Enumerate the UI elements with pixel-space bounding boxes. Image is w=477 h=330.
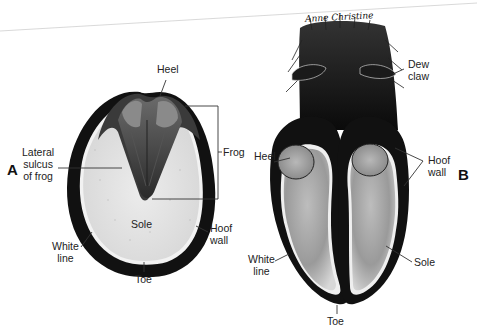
diagram-artwork bbox=[0, 0, 477, 330]
label-white-line-b-line1: White bbox=[248, 253, 275, 265]
hoof-anatomy-diagram: Anne Christine A Heel Frog Lateral sulcu… bbox=[0, 0, 477, 330]
cloven-hoof-drawing bbox=[270, 15, 409, 304]
label-lateral-sulcus-line1: Lateral bbox=[22, 146, 54, 158]
label-white-line-a: White line bbox=[52, 240, 79, 264]
label-sole-b: Sole bbox=[414, 256, 435, 268]
label-hoof-wall-b-line2: wall bbox=[428, 166, 450, 178]
label-dew-claw-line1: Dew bbox=[408, 58, 429, 70]
page-edge-line bbox=[0, 3, 477, 31]
label-heel-b: Heel bbox=[254, 150, 276, 162]
label-white-line-b: White line bbox=[248, 253, 275, 277]
equine-hoof-drawing bbox=[67, 92, 215, 278]
label-hoof-wall-b-line1: Hoof bbox=[428, 154, 450, 166]
label-toe-b: Toe bbox=[327, 315, 344, 327]
label-lateral-sulcus: Lateral sulcus of frog bbox=[22, 146, 54, 182]
label-hoof-wall-b: Hoof wall bbox=[428, 154, 450, 178]
label-lateral-sulcus-line2: sulcus bbox=[22, 158, 54, 170]
label-hoof-wall-a-line1: Hoof bbox=[210, 222, 232, 234]
label-sole-a: Sole bbox=[131, 218, 152, 230]
panel-a-letter: A bbox=[7, 161, 18, 178]
label-heel-a: Heel bbox=[157, 63, 179, 75]
label-toe-a: Toe bbox=[135, 273, 152, 285]
label-lateral-sulcus-line3: of frog bbox=[22, 170, 54, 182]
label-white-line-b-line2: line bbox=[248, 265, 275, 277]
label-hoof-wall-a-line2: wall bbox=[210, 234, 232, 246]
label-dew-claw: Dew claw bbox=[408, 58, 429, 82]
label-white-line-a-line2: line bbox=[52, 252, 79, 264]
label-hoof-wall-a: Hoof wall bbox=[210, 222, 232, 246]
label-dew-claw-line2: claw bbox=[408, 70, 429, 82]
label-white-line-a-line1: White bbox=[52, 240, 79, 252]
panel-b-letter: B bbox=[458, 166, 469, 183]
label-frog: Frog bbox=[223, 146, 245, 158]
